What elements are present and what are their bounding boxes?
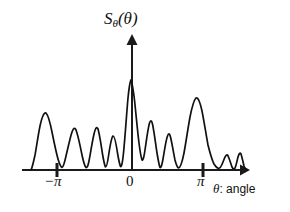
tick-label-neg-pi: −π bbox=[44, 174, 62, 189]
y-axis-label-argument: (θ) bbox=[118, 9, 138, 28]
x-axis-label: θ: angle bbox=[213, 182, 255, 195]
y-axis-label-main: S bbox=[104, 9, 113, 28]
tick-label-zero: 0 bbox=[126, 174, 134, 189]
tick-label-pi: π bbox=[197, 174, 205, 189]
angular-power-spectrum-figure: Sθ(θ) −π 0 π θ: angle bbox=[0, 0, 290, 212]
x-axis-label-text: : angle bbox=[219, 182, 255, 196]
spectrum-curve bbox=[31, 80, 247, 170]
y-axis-label: Sθ(θ) bbox=[104, 10, 138, 29]
x-axis-arrowhead bbox=[240, 165, 250, 176]
y-axis-arrowhead bbox=[127, 34, 138, 45]
